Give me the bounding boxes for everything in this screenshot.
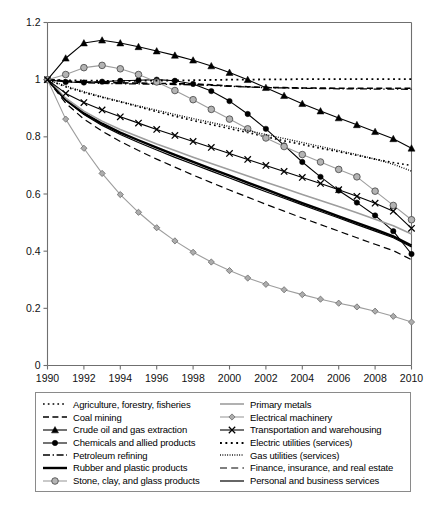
- marker-circle: [391, 228, 396, 233]
- marker-diamond: [226, 268, 232, 274]
- marker-circle: [226, 116, 233, 123]
- line-chart: 00.20.40.60.811.219901992199419961998200…: [0, 0, 430, 385]
- legend-item[interactable]: Agriculture, forestry, fisheries: [42, 398, 219, 411]
- legend-item[interactable]: Chemicals and allied products: [42, 436, 219, 449]
- legend-item[interactable]: Personal and business services: [219, 474, 404, 487]
- marker-x: [226, 150, 232, 156]
- legend-key-icon: [42, 437, 68, 449]
- marker-circle: [190, 96, 197, 103]
- x-tick-label: 2000: [218, 372, 242, 384]
- marker-circle: [52, 440, 57, 445]
- legend-item[interactable]: Rubber and plastic products: [42, 462, 219, 475]
- marker-circle: [335, 166, 342, 173]
- marker-triangle: [408, 145, 415, 151]
- marker-diamond: [336, 300, 342, 306]
- x-tick-label: 1998: [181, 372, 205, 384]
- legend-item-label: Personal and business services: [250, 475, 379, 486]
- marker-circle: [263, 135, 270, 142]
- marker-triangle: [99, 37, 106, 43]
- marker-x: [117, 114, 123, 120]
- marker-x: [208, 144, 214, 150]
- marker-circle: [318, 174, 323, 179]
- x-tick-label: 2010: [400, 372, 424, 384]
- x-axis-ticks: 1990199219941996199820002002200420062008…: [36, 366, 424, 384]
- legend-item-label: Finance, insurance, and real estate: [250, 462, 393, 473]
- legend-key-icon: [219, 437, 245, 449]
- marker-triangle: [372, 128, 379, 134]
- legend-item[interactable]: Gas utilities (services): [219, 449, 404, 462]
- legend-swatch: [42, 437, 68, 449]
- legend-item-label: Coal mining: [73, 412, 122, 423]
- legend-key-icon: [42, 411, 68, 423]
- marker-x: [63, 90, 69, 96]
- legend-item[interactable]: Transportation and warehousing: [219, 423, 404, 436]
- legend-item[interactable]: Finance, insurance, and real estate: [219, 462, 404, 475]
- marker-circle: [372, 213, 377, 218]
- marker-x: [135, 120, 141, 126]
- marker-x: [372, 200, 378, 206]
- marker-diamond: [208, 259, 214, 265]
- marker-x: [263, 162, 269, 168]
- legend-key-icon: [219, 462, 245, 474]
- legend-item[interactable]: Coal mining: [42, 411, 219, 424]
- legend-item-label: Rubber and plastic products: [73, 462, 187, 473]
- legend-column-right: Primary metalsElectrical machineryTransp…: [219, 398, 404, 487]
- marker-triangle: [317, 108, 324, 114]
- marker-circle: [190, 81, 195, 86]
- marker-circle: [300, 159, 305, 164]
- legend-key-icon: [42, 475, 68, 487]
- marker-diamond: [372, 308, 378, 314]
- legend-key-icon: [219, 475, 245, 487]
- legend-swatch: [219, 424, 245, 436]
- legend-key-icon: [219, 411, 245, 423]
- marker-circle: [208, 106, 215, 113]
- marker-circle: [172, 87, 179, 94]
- marker-diamond: [390, 313, 396, 319]
- x-tick-label: 2004: [291, 372, 315, 384]
- marker-circle: [117, 66, 124, 73]
- marker-circle: [52, 477, 59, 484]
- legend-swatch: [42, 424, 68, 436]
- legend-item[interactable]: Petroleum refining: [42, 449, 219, 462]
- marker-triangle: [299, 100, 306, 106]
- legend-item[interactable]: Crude oil and gas extraction: [42, 423, 219, 436]
- legend-item-label: Chemicals and allied products: [73, 437, 195, 448]
- series-line: [48, 80, 412, 254]
- marker-circle: [390, 202, 397, 209]
- legend-item-label: Gas utilities (services): [250, 450, 339, 461]
- marker-x: [81, 99, 87, 105]
- legend-key-icon: [42, 398, 68, 410]
- marker-circle: [81, 64, 88, 71]
- legend-item[interactable]: Electric utilities (services): [219, 436, 404, 449]
- marker-circle: [408, 216, 415, 223]
- legend-item[interactable]: Electrical machinery: [219, 411, 404, 424]
- marker-circle: [135, 71, 142, 78]
- x-tick-label: 1996: [145, 372, 169, 384]
- marker-triangle: [353, 121, 360, 127]
- marker-x: [190, 138, 196, 144]
- marker-diamond: [408, 319, 414, 325]
- marker-circle: [227, 98, 232, 103]
- marker-x: [245, 156, 251, 162]
- marker-diamond: [317, 296, 323, 302]
- legend-item-label: Primary metals: [250, 399, 311, 410]
- marker-circle: [62, 71, 69, 78]
- legend-key-icon: [219, 424, 245, 436]
- marker-circle: [99, 62, 106, 69]
- marker-circle: [281, 143, 288, 150]
- chart-svg: 00.20.40.60.811.219901992199419961998200…: [0, 0, 430, 385]
- marker-diamond: [63, 116, 69, 122]
- legend-item[interactable]: Primary metals: [219, 398, 404, 411]
- marker-triangle: [335, 114, 342, 120]
- legend-item[interactable]: Stone, clay, and glass products: [42, 474, 219, 487]
- marker-x: [299, 174, 305, 180]
- marker-x: [99, 107, 105, 113]
- marker-diamond: [190, 249, 196, 255]
- y-tick-label: 0.8: [26, 130, 41, 142]
- legend-swatch: [219, 475, 245, 487]
- marker-triangle: [281, 92, 288, 98]
- marker-circle: [354, 200, 359, 205]
- legend-swatch: [219, 398, 245, 410]
- legend-key-icon: [219, 398, 245, 410]
- y-tick-label: 0: [35, 359, 41, 371]
